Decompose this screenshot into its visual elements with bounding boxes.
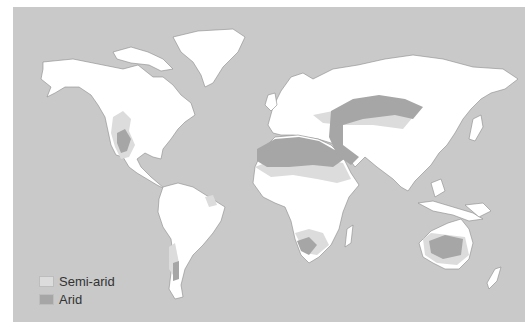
world-map: Semi-arid Arid	[13, 7, 525, 322]
legend-item-semi-arid: Semi-arid	[39, 272, 115, 290]
madagascar	[345, 225, 353, 247]
greenland	[173, 29, 245, 87]
map-legend: Semi-arid Arid	[39, 272, 115, 308]
japan	[469, 115, 483, 141]
semi-arid-swatch	[39, 276, 54, 287]
borneo	[431, 179, 445, 197]
arctic-islands	[113, 47, 173, 71]
legend-label: Semi-arid	[59, 274, 115, 289]
new-zealand	[487, 267, 501, 289]
legend-label: Arid	[59, 292, 82, 307]
legend-item-arid: Arid	[39, 290, 115, 308]
arid-swatch	[39, 294, 54, 305]
